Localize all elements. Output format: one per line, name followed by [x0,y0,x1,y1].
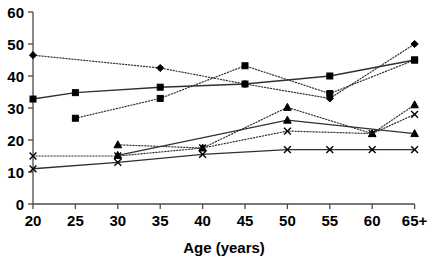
y-tick-label: 60 [7,4,24,21]
x-tick-label: 30 [109,212,126,229]
triangle-marker [114,141,122,148]
series-line [118,105,415,148]
x-marker [411,111,418,118]
diamond-marker [29,52,36,59]
line-chart: 0102030405060 20253035404550556065+ Age … [0,0,429,260]
x-tick-label: 20 [25,212,42,229]
series-line [33,150,415,169]
square-marker [327,73,333,79]
square-marker [412,57,418,63]
x-tick-label: 45 [237,212,254,229]
triangle-marker [284,116,292,123]
x-tick-label: 25 [67,212,84,229]
y-tick-label: 0 [16,196,24,213]
square-marker [157,95,163,101]
y-tick-label: 30 [7,100,24,117]
series-series-diamond-dotted-upper [29,40,418,102]
x-tick-label: 35 [152,212,169,229]
x-tick-label: 60 [364,212,381,229]
x-tick-label: 65+ [402,212,428,229]
x-axis: 20253035404550556065+ [25,204,428,229]
square-marker [327,91,333,97]
triangle-marker [411,101,419,108]
series-series-x-solid [30,146,418,172]
data-series-group [29,40,418,172]
triangle-marker [284,103,292,110]
y-axis: 0102030405060 [7,4,33,213]
series-series-x-dotted [30,111,418,159]
square-marker [72,115,78,121]
y-tick-label: 50 [7,36,24,53]
y-tick-label: 10 [7,164,24,181]
chart-container: 0102030405060 20253035404550556065+ Age … [0,0,429,260]
diamond-marker [157,64,164,71]
x-axis-title: Age (years) [183,239,265,256]
y-tick-label: 20 [7,132,24,149]
diamond-marker [411,40,418,47]
square-marker [242,81,248,87]
square-marker [157,84,163,90]
square-marker [72,90,78,96]
y-tick-label: 40 [7,68,24,85]
series-series-triangle-dotted [114,101,418,151]
square-marker [30,96,36,102]
x-tick-label: 40 [194,212,211,229]
square-marker [242,63,248,69]
x-tick-label: 50 [279,212,296,229]
x-tick-label: 55 [321,212,338,229]
